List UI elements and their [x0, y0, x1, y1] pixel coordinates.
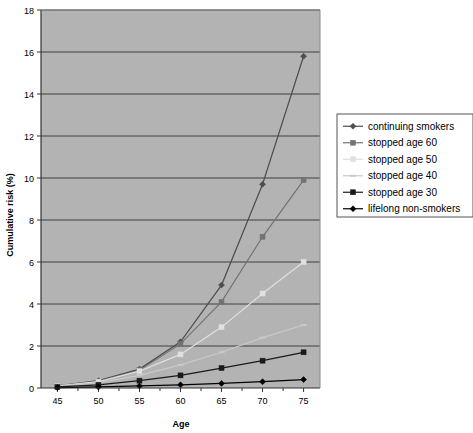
- data-point-marker: [178, 373, 183, 378]
- y-tick-label: 14: [24, 90, 34, 100]
- data-point-marker: [178, 352, 183, 357]
- data-point-marker: [137, 378, 142, 383]
- data-point-marker: [219, 299, 224, 304]
- x-tick-label: 60: [175, 396, 185, 406]
- data-point-marker: [136, 374, 142, 376]
- data-point-marker: [260, 234, 265, 239]
- x-tick-label: 65: [217, 396, 227, 406]
- x-tick-label: 50: [93, 396, 103, 406]
- y-tick-label: 18: [24, 6, 34, 16]
- x-tick-label: 55: [134, 396, 144, 406]
- data-point-marker: [219, 325, 224, 330]
- data-point-marker: [301, 350, 306, 355]
- y-tick-label: 4: [29, 300, 34, 310]
- data-point-marker: [301, 324, 307, 326]
- y-tick-label: 8: [29, 216, 34, 226]
- y-axis-title: Cumulative risk (%): [5, 173, 15, 257]
- x-tick-label: 45: [52, 396, 62, 406]
- data-point-marker: [351, 190, 356, 195]
- data-point-marker: [178, 341, 183, 346]
- chart-legend: continuing smokersstopped age 60stopped …: [337, 114, 473, 217]
- data-point-marker: [350, 175, 356, 177]
- x-axis-title: Age: [172, 419, 189, 429]
- data-point-marker: [301, 178, 306, 183]
- legend-item-label: continuing smokers: [368, 121, 454, 132]
- x-tick-label: 70: [258, 396, 268, 406]
- chart-container: 024681012141618 45505560657075 Cumulativ…: [0, 0, 473, 433]
- y-tick-label: 16: [24, 48, 34, 58]
- plot-area: [41, 10, 320, 388]
- plot-background: [41, 10, 320, 388]
- data-point-marker: [351, 157, 356, 162]
- data-point-marker: [260, 337, 266, 339]
- y-tick-label: 10: [24, 174, 34, 184]
- legend-item-label: stopped age 60: [368, 137, 437, 148]
- data-point-marker: [351, 140, 356, 145]
- data-point-marker: [260, 291, 265, 296]
- legend-item-label: stopped age 50: [368, 154, 437, 165]
- data-point-marker: [219, 351, 225, 353]
- cumulative-risk-line-chart: 024681012141618 45505560657075 Cumulativ…: [0, 0, 473, 433]
- y-tick-label: 12: [24, 132, 34, 142]
- y-tick-label: 0: [29, 384, 34, 394]
- data-point-marker: [260, 358, 265, 363]
- data-point-marker: [219, 366, 224, 371]
- legend-item-label: stopped age 30: [368, 187, 437, 198]
- legend-item-label: stopped age 40: [368, 170, 437, 181]
- y-tick-label: 2: [29, 342, 34, 352]
- data-point-marker: [137, 369, 142, 374]
- x-tick-label: 75: [299, 396, 309, 406]
- legend-item-label: lifelong non-smokers: [368, 203, 460, 214]
- y-tick-label: 6: [29, 258, 34, 268]
- data-point-marker: [178, 364, 184, 366]
- data-point-marker: [301, 260, 306, 265]
